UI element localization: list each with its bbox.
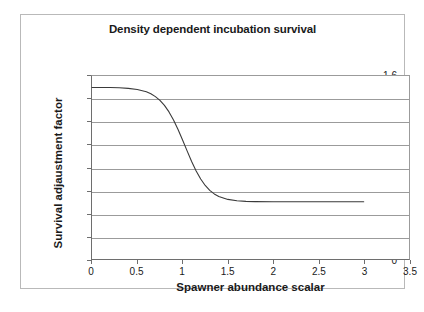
- x-tick-label: 0: [71, 266, 111, 277]
- x-axis-title: Spawner abundance scalar: [91, 281, 410, 293]
- x-tick-label: 2: [253, 266, 293, 277]
- x-tick-mark: [319, 260, 320, 264]
- x-tick-label: 2.5: [299, 266, 339, 277]
- x-tick-label: 0.5: [117, 266, 157, 277]
- figure-frame: Density dependent incubation survival Su…: [20, 14, 405, 289]
- x-tick-mark: [228, 260, 229, 264]
- x-tick-label: 3: [344, 266, 384, 277]
- x-tick-mark: [91, 260, 92, 264]
- x-tick-mark: [410, 260, 411, 264]
- chart-title: Density dependent incubation survival: [21, 23, 404, 35]
- x-tick-mark: [182, 260, 183, 264]
- x-tick-label: 1.5: [208, 266, 248, 277]
- survival-curve: [92, 87, 364, 201]
- y-axis-title: Survival adjaustment factor: [52, 78, 64, 268]
- x-tick-mark: [273, 260, 274, 264]
- plot-area: [91, 75, 410, 260]
- x-tick-mark: [137, 260, 138, 264]
- x-tick-label: 1: [162, 266, 202, 277]
- page-caption: [12, 301, 412, 312]
- x-tick-label: 3.5: [390, 266, 424, 277]
- curve-canvas: [92, 76, 409, 259]
- x-tick-mark: [364, 260, 365, 264]
